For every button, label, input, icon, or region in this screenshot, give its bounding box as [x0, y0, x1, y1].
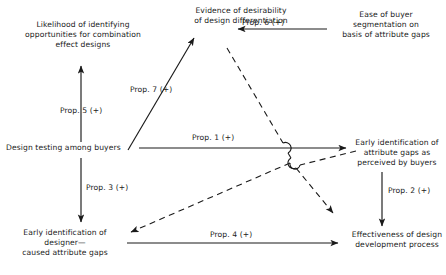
edge-label-prop-5: Prop. 5 (+)	[60, 106, 102, 116]
node-design-development: Effectiveness of design development proc…	[348, 230, 446, 250]
edge-label-prop-6: Prop. 6 (+)	[242, 18, 284, 28]
edge-label-prop-1: Prop. 1 (+)	[192, 133, 234, 143]
edge-label-prop-7: Prop. 7 (+)	[130, 85, 172, 95]
node-design-testing: Design testing among buyers	[6, 143, 138, 153]
edge-label-prop-2: Prop. 2 (+)	[388, 186, 430, 196]
edge-dashed-buyer-gaps-designer-gaps	[131, 151, 356, 232]
node-buyer-attribute-gaps: Early identification of attribute gaps a…	[348, 138, 446, 169]
node-combination-effect: Likelihood of identifying opportunities …	[8, 20, 158, 51]
node-designer-attribute-gaps: Early identification of designer— caused…	[6, 228, 124, 259]
edge-label-prop-3: Prop. 3 (+)	[86, 183, 128, 193]
node-buyer-segmentation: Ease of buyer segmentation on basis of a…	[330, 10, 442, 41]
edge-label-prop-4: Prop. 4 (+)	[210, 230, 252, 240]
edge-dashed-differentiation-development	[227, 48, 333, 213]
diagram-canvas: Likelihood of identifying opportunities …	[0, 0, 446, 275]
